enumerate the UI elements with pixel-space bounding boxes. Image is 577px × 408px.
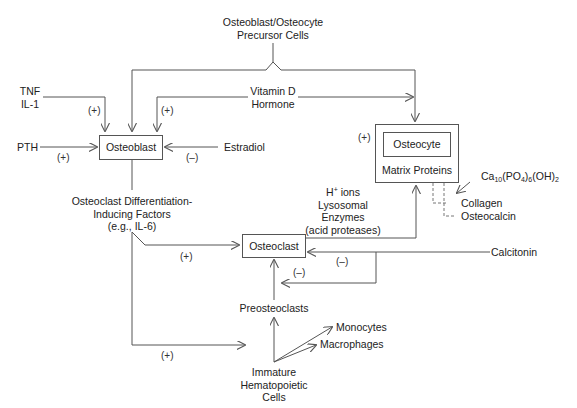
sign-vitd-plus: (+) <box>161 105 174 116</box>
osteoclast-label: Osteoclast <box>243 240 305 252</box>
preosteoclasts-label: Preosteoclasts <box>240 302 309 315</box>
osteoclast-node: Osteoclast <box>242 234 306 258</box>
sign-calcitonin-preosteoclast-minus: (–) <box>293 267 305 278</box>
hematopoietic-cells-label: Immature Hematopoietic Cells <box>240 366 307 404</box>
sign-estradiol-minus: (–) <box>186 152 198 163</box>
sign-tnf-plus: (+) <box>88 105 101 116</box>
osteoblast-node: Osteoblast <box>99 135 163 160</box>
calcium-phosphate-label: Ca10(PO4)6(OH)2 <box>481 170 559 187</box>
sign-osteocyte-plus: (+) <box>358 132 371 143</box>
vitamin-d-hormone-label: Vitamin D Hormone <box>250 85 295 110</box>
differentiation-factors-label: Osteoclast Differentiation- Inducing Fac… <box>72 195 193 233</box>
estradiol-label: Estradiol <box>224 141 265 154</box>
precursor-cells-label: Osteoblast/Osteocyte Precursor Cells <box>223 16 323 41</box>
monocytes-label: Monocytes <box>336 321 387 334</box>
pth-label: PTH <box>17 141 38 154</box>
osteocyte-label: Osteocyte <box>384 138 450 150</box>
tnf-il1-label: TNF IL-1 <box>20 85 40 110</box>
sign-calcitonin-osteoclast-minus: (–) <box>336 256 348 267</box>
collagen-label: Collagen <box>461 197 502 210</box>
osteoblast-label: Osteoblast <box>100 141 162 153</box>
sign-factors-osteoclast-plus: (+) <box>180 251 193 262</box>
macrophages-label: Macrophages <box>320 338 384 351</box>
osteoclast-products-label: H+ ions Lysosomal Enzymes (acid protease… <box>305 184 380 236</box>
sign-factors-hematopoietic-plus: (+) <box>161 350 174 361</box>
calcitonin-label: Calcitonin <box>491 246 537 259</box>
osteocyte-node: Osteocyte <box>383 132 451 157</box>
matrix-proteins-label: Matrix Proteins <box>376 164 458 176</box>
bone-remodeling-diagram: Osteoblast/Osteocyte Precursor Cells TNF… <box>0 0 577 408</box>
sign-pth-plus: (+) <box>57 152 70 163</box>
osteocalcin-label: Osteocalcin <box>461 210 516 223</box>
osteocyte-matrix-node: Osteocyte Matrix Proteins <box>375 124 459 183</box>
